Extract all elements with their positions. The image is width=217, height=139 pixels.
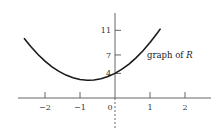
graph-label-prefix: graph of xyxy=(147,50,186,60)
function-graph: −2−10124711 graph of R xyxy=(0,0,217,139)
x-tick-label: 0 xyxy=(107,103,112,112)
ticks: −2−10124711 xyxy=(39,26,187,112)
y-tick-label: 11 xyxy=(101,26,111,35)
x-tick-label: −1 xyxy=(74,103,86,112)
x-tick-label: 1 xyxy=(147,103,152,112)
curve-R xyxy=(24,29,161,81)
y-tick-label: 7 xyxy=(106,51,111,60)
graph-label-var: R xyxy=(185,50,193,60)
x-tick-label: −2 xyxy=(39,103,51,112)
x-tick-label: 2 xyxy=(182,103,187,112)
graph-label: graph of R xyxy=(147,50,193,60)
